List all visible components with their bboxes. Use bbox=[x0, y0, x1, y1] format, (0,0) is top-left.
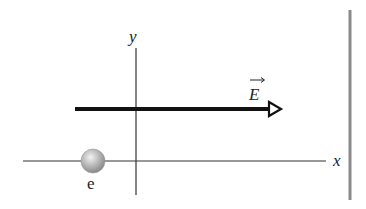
electric-field-arrow bbox=[75, 102, 281, 116]
field-label-text: E bbox=[248, 85, 260, 104]
x-axis-label: x bbox=[332, 151, 341, 170]
electron-label: e bbox=[87, 174, 95, 193]
y-axis-label: y bbox=[127, 27, 137, 46]
field-label: E bbox=[248, 78, 265, 105]
arrowhead-icon bbox=[269, 102, 281, 116]
electron-particle bbox=[81, 149, 105, 173]
vector-arrow-icon bbox=[250, 78, 265, 83]
physics-diagram: x y E e bbox=[0, 0, 366, 209]
